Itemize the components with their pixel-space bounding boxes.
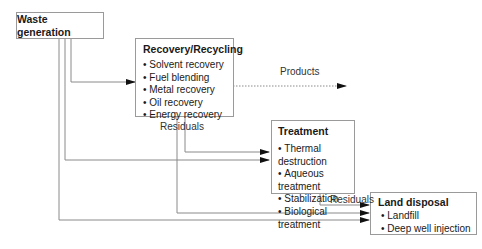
edge-label-recovery-residuals: Residuals xyxy=(160,121,204,133)
node-treatment: Treatment Thermal destruction Aqueous tr… xyxy=(271,120,355,194)
node-item-list: Thermal destruction Aqueous treatment St… xyxy=(278,143,354,231)
list-item: Deep well injection xyxy=(381,223,476,236)
node-title: Treatment xyxy=(278,125,354,138)
node-title: Land disposal xyxy=(378,196,476,209)
list-item: Fuel blending xyxy=(143,72,233,85)
list-item: Solvent recovery xyxy=(143,59,233,72)
list-item: Landfill xyxy=(381,210,476,223)
node-title: Waste generation xyxy=(17,13,103,39)
list-item: Metal recovery xyxy=(143,84,233,97)
node-item-list: Landfill Deep well injection xyxy=(378,210,476,235)
edge-waste-to-recovery xyxy=(71,38,135,82)
node-item-list: Solvent recovery Fuel blending Metal rec… xyxy=(143,59,233,122)
list-item: Oil recovery xyxy=(143,97,233,110)
node-recovery-recycling: Recovery/Recycling Solvent recovery Fuel… xyxy=(135,38,234,117)
edge-label-products: Products xyxy=(280,66,319,78)
list-item: Thermal destruction xyxy=(278,143,354,168)
node-waste-generation: Waste generation xyxy=(16,12,104,39)
list-item: Biological treatment xyxy=(278,206,354,231)
node-land-disposal: Land disposal Landfill Deep well injecti… xyxy=(370,192,477,235)
node-title: Recovery/Recycling xyxy=(143,43,233,56)
edge-label-treatment-residuals: Residuals xyxy=(330,194,374,206)
list-item: Aqueous treatment xyxy=(278,168,354,193)
